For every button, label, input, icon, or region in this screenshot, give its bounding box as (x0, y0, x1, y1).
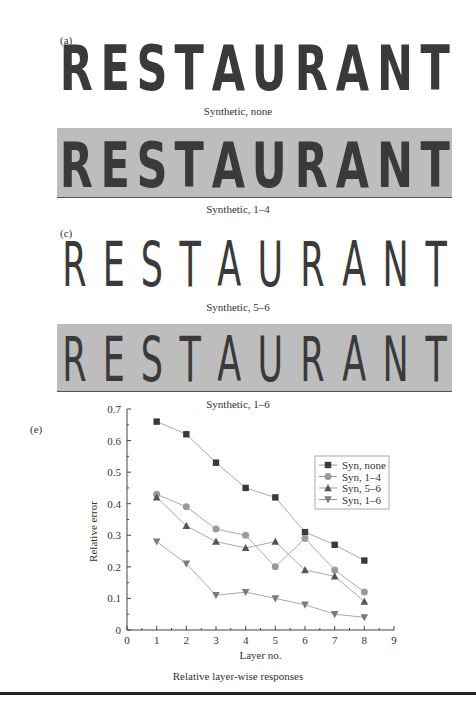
data-point (302, 535, 309, 542)
data-point (272, 494, 278, 500)
x-axis-label: Layer no. (239, 649, 281, 661)
data-point (242, 532, 249, 539)
bottom-rule (0, 692, 476, 695)
data-point (212, 592, 220, 599)
x-tick-label: 8 (362, 634, 368, 646)
y-tick-label: 0.7 (107, 403, 121, 415)
y-tick-label: 0.5 (107, 466, 121, 478)
y-tick-label: 0.4 (107, 498, 121, 510)
x-tick-label: 4 (243, 634, 249, 646)
legend-marker (325, 473, 332, 480)
x-tick-label: 2 (184, 634, 190, 646)
data-point (331, 542, 337, 548)
y-axis-label: Relative error (87, 501, 99, 562)
data-point (242, 485, 248, 491)
x-tick-label: 9 (391, 634, 397, 646)
legend-marker (325, 462, 331, 468)
data-point (361, 557, 367, 563)
x-tick-label: 0 (124, 634, 130, 646)
x-tick-label: 3 (213, 634, 219, 646)
data-point (361, 614, 369, 621)
legend-label: Syn, 1–6 (342, 494, 382, 506)
data-point (272, 538, 280, 545)
data-point (213, 459, 219, 465)
data-point (183, 431, 189, 437)
data-point (361, 589, 368, 596)
x-tick-label: 7 (332, 634, 338, 646)
y-tick-label: 0.6 (107, 435, 121, 447)
data-point (212, 538, 220, 545)
series-line (157, 497, 365, 601)
line-chart: 012345678900.10.20.30.40.50.60.7Layer no… (0, 0, 476, 704)
x-tick-label: 5 (273, 634, 279, 646)
data-point (153, 538, 161, 545)
legend-label: Syn, 5–6 (342, 482, 382, 494)
y-tick-label: 0 (116, 624, 122, 636)
x-tick-label: 6 (302, 634, 308, 646)
data-point (153, 418, 159, 424)
data-point (213, 525, 220, 532)
y-tick-label: 0.3 (107, 529, 121, 541)
legend-label: Syn, none (342, 459, 386, 471)
data-point (183, 503, 190, 510)
chart-caption: Relative layer-wise responses (0, 670, 476, 682)
data-point (272, 563, 279, 570)
y-tick-label: 0.2 (107, 561, 121, 573)
legend-label: Syn, 1–4 (342, 471, 382, 483)
x-tick-label: 1 (154, 634, 160, 646)
data-point (302, 529, 308, 535)
y-tick-label: 0.1 (107, 592, 121, 604)
